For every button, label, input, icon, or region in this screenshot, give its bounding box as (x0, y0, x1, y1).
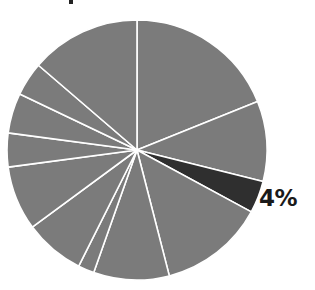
highlight-percent-label: 4% (259, 185, 297, 211)
pie-chart (0, 0, 315, 290)
pie-slices (7, 20, 267, 280)
